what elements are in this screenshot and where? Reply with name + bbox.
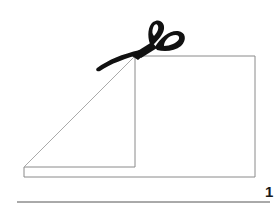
step-number: 1 (265, 183, 273, 200)
paper-sheet (24, 56, 255, 177)
fold-diagram (0, 0, 280, 208)
scissors-icon (96, 20, 185, 71)
diagram-canvas: 1 (0, 0, 280, 208)
